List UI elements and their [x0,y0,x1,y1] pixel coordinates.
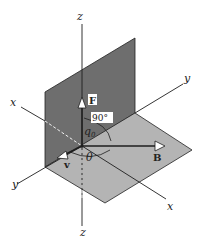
x-label-back: x [10,96,17,109]
b-label: B [153,152,161,163]
charge-subscript: 0 [91,131,96,139]
y-label-back: y [183,72,191,85]
f-label: F [89,95,96,106]
diagram-canvas: z z x x y y F B v 90° θ q0 [0,0,199,240]
charge-symbol: q [84,125,91,138]
v-label: v [63,159,71,170]
z-label-top: z [76,10,83,23]
theta-label: θ [86,151,93,164]
z-label-bottom: z [79,226,86,239]
y-label-front: y [11,178,19,191]
right-angle-label: 90° [92,113,108,123]
charge-dot [80,144,83,147]
x-axis-back [21,107,45,121]
y-axis-back [135,84,183,113]
x-label-front: x [167,200,174,213]
